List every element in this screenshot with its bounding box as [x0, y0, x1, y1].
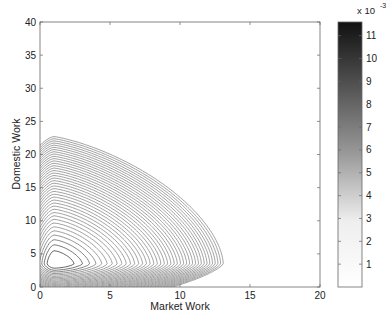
colorbar-tick-label: 9: [366, 76, 372, 87]
x-tick-label: 15: [244, 290, 256, 301]
colorbar-tick-label: 3: [366, 213, 372, 224]
y-tick-label: 10: [25, 215, 37, 226]
y-tick-label: 40: [25, 17, 37, 28]
colorbar-tick-label: 7: [366, 122, 372, 133]
colorbar-tick-label: 2: [366, 236, 372, 247]
y-tick-label: 5: [30, 248, 36, 259]
colorbar-tick-label: 10: [366, 53, 378, 64]
colorbar-tick-label: 5: [366, 167, 372, 178]
colorbar-tick-label: 8: [366, 99, 372, 110]
y-tick-label: 20: [25, 149, 37, 160]
y-tick-label: 0: [30, 282, 36, 293]
y-axis-label: Domestic Work: [10, 118, 22, 190]
y-tick-label: 30: [25, 83, 37, 94]
y-tick-label: 25: [25, 116, 37, 127]
x-axis-label: Market Work: [150, 300, 210, 312]
colorbar-multiplier: x 10: [357, 5, 375, 16]
colorbar: [338, 22, 362, 287]
y-tick-label: 35: [25, 50, 37, 61]
colorbar-tick-label: 11: [366, 30, 377, 41]
contour-lines: [40, 137, 223, 287]
colorbar-tick-label: 4: [366, 190, 372, 201]
contour-chart: 051015200510152025303540 Market Work Dom…: [0, 0, 390, 321]
x-tick-label: 0: [37, 290, 43, 301]
colorbar-exponent: -3: [380, 2, 386, 9]
colorbar-tick-label: 1: [366, 259, 372, 270]
y-tick-label: 15: [25, 182, 37, 193]
x-tick-label: 5: [107, 290, 113, 301]
colorbar-tick-label: 6: [366, 144, 372, 155]
x-tick-label: 20: [314, 290, 326, 301]
